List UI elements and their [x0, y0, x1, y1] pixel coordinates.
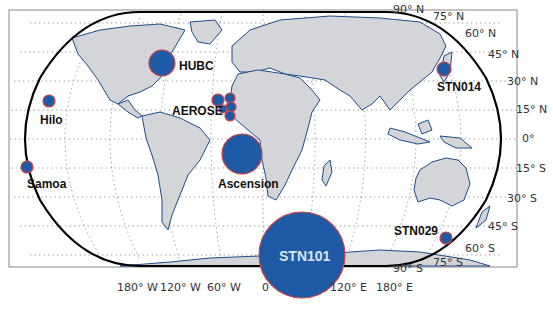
lat-label-60s: 60° S [465, 242, 495, 255]
marker-hubc [149, 50, 175, 76]
label-stn101: STN101 [279, 248, 330, 264]
label-stn029: STN029 [394, 224, 438, 238]
lat-label-75s: 75° S [433, 256, 463, 269]
lon-label-180w: 180° W [117, 281, 158, 294]
lat-label-30s: 30° S [507, 192, 537, 205]
lat-label-90n: 90° N [393, 3, 424, 16]
lon-label-180e: 180° E [376, 281, 413, 294]
lon-label-120e: 120° E [330, 281, 367, 294]
marker-stn014 [437, 62, 451, 76]
lat-label-90s: 90° S [393, 262, 423, 275]
lat-label-15n: 15° N [516, 103, 547, 116]
lon-label-0: 0 [262, 281, 269, 294]
lat-label-0: 0° [522, 132, 535, 145]
lat-label-75n: 75° N [433, 10, 464, 23]
marker-ascension [222, 134, 262, 174]
lon-label-60w: 60° W [207, 281, 241, 294]
lat-label-45s: 45° S [488, 220, 518, 233]
label-ascension: Ascension [218, 177, 279, 191]
label-hubc: HUBC [179, 59, 214, 73]
marker-stn029 [440, 232, 452, 244]
label-hilo: Hilo [40, 113, 63, 127]
marker-aerose-5 [225, 111, 235, 121]
label-samoa: Samoa [27, 177, 66, 191]
lat-label-45n: 45° N [488, 48, 519, 61]
label-stn014: STN014 [437, 80, 481, 94]
marker-samoa [21, 161, 33, 173]
marker-hilo [43, 95, 55, 107]
lon-label-120w: 120° W [160, 281, 201, 294]
lat-label-30n: 30° N [507, 75, 538, 88]
world-map [0, 0, 553, 310]
label-aerose: AEROSE [172, 104, 223, 118]
lat-label-15s: 15° S [516, 162, 546, 175]
lat-label-60n: 60° N [465, 27, 496, 40]
